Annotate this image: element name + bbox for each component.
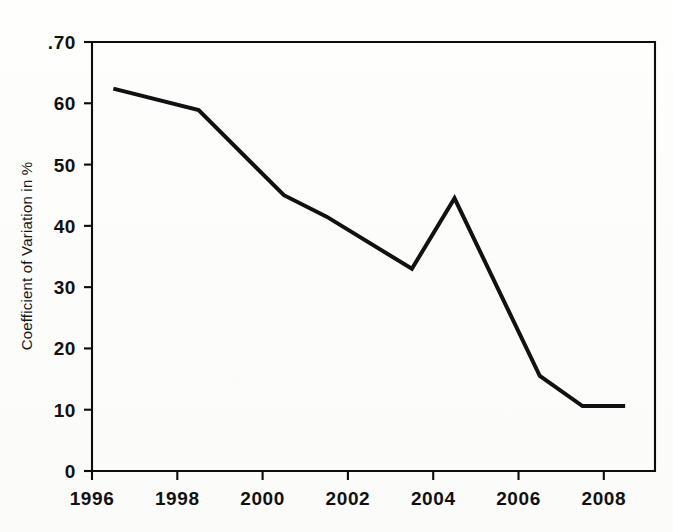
- x-axis-ticks: 1996199820002002200420062008: [70, 471, 626, 509]
- data-series-group: [113, 89, 625, 406]
- x-tick-label: 2008: [581, 488, 626, 509]
- y-tick-label: 30: [54, 277, 76, 298]
- x-tick-label: 2002: [326, 488, 371, 509]
- y-tick-label: 20: [54, 338, 76, 359]
- x-tick-label: 1996: [70, 488, 115, 509]
- y-tick-label: 60: [54, 93, 76, 114]
- y-tick-label: 40: [54, 216, 76, 237]
- y-axis-ticks: 0102030405060.70: [48, 32, 92, 482]
- y-tick-label: 0: [65, 461, 76, 482]
- y-tick-label: 10: [54, 400, 76, 421]
- line-chart: 0102030405060.70 19961998200020022004200…: [0, 0, 673, 532]
- x-tick-label: 1998: [155, 488, 200, 509]
- x-tick-label: 2000: [240, 488, 285, 509]
- y-axis-title: Coefficient of Variation in %: [18, 162, 35, 351]
- x-tick-label: 2006: [496, 488, 541, 509]
- y-tick-label: .70: [48, 32, 76, 53]
- series-line: [113, 89, 625, 406]
- x-tick-label: 2004: [411, 488, 456, 509]
- chart-figure: 0102030405060.70 19961998200020022004200…: [0, 0, 673, 532]
- y-tick-label: 50: [54, 155, 76, 176]
